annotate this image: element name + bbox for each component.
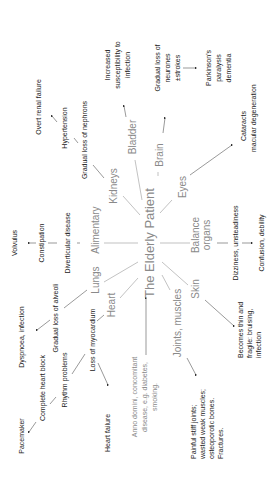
- brain-step2-line3: dementia: [225, 53, 232, 82]
- organ-joints: Joints, muscles: [172, 289, 183, 357]
- causes-line2: disease, e.g. diabetes,: [141, 362, 149, 432]
- elderly-patient-diagram: The Elderly Patient Kidneys Bladder Brai…: [0, 0, 269, 504]
- brain-step1-line3: ±strokes: [174, 54, 181, 81]
- organ-balance-2: organs: [201, 220, 212, 251]
- eyes-line1: Cataracts: [240, 111, 247, 141]
- heart-block: Complete heart block: [39, 354, 47, 421]
- causes-line3: smoking.: [151, 383, 159, 411]
- skin-line2: fragile: bruising,: [246, 309, 254, 358]
- bladder-line3: infection: [124, 52, 131, 78]
- kidneys-step2: Hypertension: [61, 107, 69, 148]
- bladder-line2: susceptibility to: [114, 41, 122, 89]
- brain-step1-line2: neurones: [164, 53, 171, 83]
- joints-line3: osteoporotic bones.: [208, 398, 216, 459]
- causes-line1: Anno domini, concomitant: [131, 357, 138, 438]
- heart-rhythm: Rhythm problems: [61, 352, 69, 407]
- skin-line1: Becomes thin and: [237, 302, 244, 358]
- balance-step2: Confusion, debility: [258, 214, 266, 272]
- joints-line1: Painful stiff joints;: [190, 405, 198, 459]
- organ-kidneys: Kidneys: [108, 168, 119, 204]
- brain-step2-line1: Parkinson's: [205, 50, 212, 86]
- lungs-step1: Gradual loss of alveoli: [52, 283, 59, 352]
- kidneys-step3: Overt renal failure: [35, 79, 42, 135]
- balance-step1: Dizziness, unsteadiness: [232, 205, 239, 281]
- heart-step1: Loss of myocardium: [89, 309, 97, 372]
- brain-step1-line1: Gradual loss of: [154, 44, 161, 91]
- heart-failure: Heart failure: [104, 414, 111, 452]
- organ-heart: Heart: [106, 293, 117, 318]
- center-label: The Elderly Patient: [142, 188, 157, 298]
- skin-line3: infection: [255, 332, 262, 358]
- heart-pacemaker: Pacemaker: [18, 418, 25, 454]
- organ-skin: Skin: [190, 279, 201, 298]
- organ-balance-1: Balance: [190, 216, 201, 253]
- alimentary-step2: Constipation: [38, 223, 46, 262]
- organ-alimentary: Alimentary: [90, 206, 101, 253]
- organ-lungs: Lungs: [90, 266, 101, 293]
- alimentary-step1: Diverticular disease: [64, 212, 71, 273]
- organ-eyes: Eyes: [177, 176, 188, 198]
- lungs-step2: Dyspnoea, infection: [18, 306, 26, 368]
- brain-step2-line2: paralysis: [215, 54, 223, 82]
- alimentary-step3: Volvulus: [11, 229, 18, 256]
- kidneys-step1: Gradual loss of nephrons: [81, 100, 89, 179]
- bladder-line1: Increased: [104, 50, 111, 81]
- organ-bladder: Bladder: [127, 119, 138, 154]
- joints-line4: Fractures.: [217, 427, 224, 459]
- organ-brain: Brain: [154, 143, 165, 166]
- eyes-line2: macular degeneration: [250, 84, 258, 152]
- joints-line2: wasted weak muscles;: [199, 389, 206, 460]
